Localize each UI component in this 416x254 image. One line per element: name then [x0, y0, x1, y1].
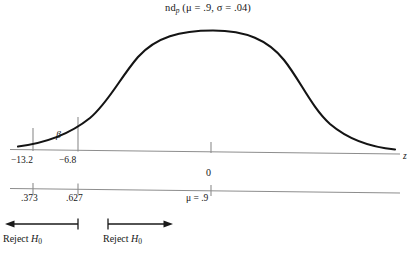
reject-h0-label-right-text: Reject	[103, 233, 131, 244]
reject-h0-label-right: Reject H0	[103, 234, 142, 246]
proportion-axis-tick-label-left: .373	[21, 194, 38, 204]
reject-h0-label-left: Reject H0	[3, 234, 42, 246]
chart-title-params: (μ = .9, σ = .04)	[182, 2, 251, 13]
reject-left-arrow-head	[5, 221, 15, 228]
normal-distribution-figure	[0, 0, 416, 254]
z-axis-tick-label-left: −13.2	[11, 156, 33, 166]
reject-right-arrow-head	[164, 221, 174, 228]
reject-h0-label-right-subscript: 0	[138, 237, 142, 246]
proportion-axis-tick-label-right: .627	[66, 194, 83, 204]
reject-h0-label-left-text: Reject	[3, 233, 31, 244]
density-curve	[18, 31, 395, 150]
beta-region-label: β	[56, 130, 61, 140]
reject-h0-label-left-subscript: 0	[38, 237, 42, 246]
chart-title: ndp (μ = .9, σ = .04)	[0, 3, 416, 15]
z-axis-tick-label-right: −6.8	[59, 156, 76, 166]
chart-title-prefix: nd	[165, 2, 176, 13]
z-axis-center-label: 0	[206, 168, 211, 178]
z-axis-symbol-label: z	[403, 152, 407, 162]
z-axis-line	[10, 150, 400, 155]
chart-title-subscript: p	[176, 6, 180, 15]
proportion-axis-mean-label: μ = .9	[186, 194, 208, 204]
